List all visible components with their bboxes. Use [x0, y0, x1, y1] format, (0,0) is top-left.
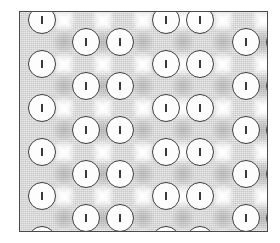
atom-tick-icon	[245, 170, 247, 178]
lattice-atom	[186, 94, 214, 122]
texture-figure	[0, 0, 280, 243]
atom-tick-icon	[199, 16, 201, 24]
atom-tick-icon	[41, 60, 43, 68]
atom-tick-icon	[85, 214, 87, 222]
atom-tick-icon	[199, 148, 201, 156]
lattice-atom	[186, 138, 214, 166]
lattice-atom	[72, 28, 100, 56]
lattice-atom	[72, 116, 100, 144]
atom-tick-icon	[245, 38, 247, 46]
lattice-atom	[232, 116, 260, 144]
atom-tick-icon	[85, 126, 87, 134]
atom-tick-icon	[85, 170, 87, 178]
atom-tick-icon	[245, 126, 247, 134]
atom-tick-icon	[41, 148, 43, 156]
atom-tick-icon	[165, 104, 167, 112]
atom-tick-icon	[245, 214, 247, 222]
atom-tick-icon	[165, 148, 167, 156]
lattice-atom	[106, 204, 134, 232]
atom-tick-icon	[41, 192, 43, 200]
atom-tick-icon	[199, 192, 201, 200]
lattice-atom	[232, 160, 260, 188]
lattice-atom	[72, 160, 100, 188]
lattice-atom	[232, 72, 260, 100]
atom-tick-icon	[119, 126, 121, 134]
lattice-atom	[232, 28, 260, 56]
lattice-atom	[186, 182, 214, 210]
atom-tick-icon	[85, 38, 87, 46]
atom-tick-icon	[165, 60, 167, 68]
lattice-atom	[28, 50, 56, 78]
lattice-atom	[28, 182, 56, 210]
lattice-atom	[106, 72, 134, 100]
atom-tick-icon	[245, 82, 247, 90]
lattice-atom	[152, 182, 180, 210]
lattice-atom	[152, 50, 180, 78]
lattice-atom	[72, 204, 100, 232]
atom-tick-icon	[41, 16, 43, 24]
lattice-atom	[106, 28, 134, 56]
lattice-atom	[152, 138, 180, 166]
atom-tick-icon	[119, 214, 121, 222]
atom-tick-icon	[119, 38, 121, 46]
texture-plate	[19, 11, 268, 232]
atom-tick-icon	[165, 192, 167, 200]
lattice-atom	[232, 204, 260, 232]
texture-ground	[20, 12, 267, 231]
atom-tick-icon	[165, 16, 167, 24]
atom-tick-icon	[199, 60, 201, 68]
lattice-atom	[106, 160, 134, 188]
atom-tick-icon	[119, 170, 121, 178]
lattice-atom	[152, 94, 180, 122]
atom-tick-icon	[199, 104, 201, 112]
lattice-atom	[186, 50, 214, 78]
lattice-atom	[72, 72, 100, 100]
lattice-atom	[28, 94, 56, 122]
lattice-atom	[28, 138, 56, 166]
lattice-atom	[106, 116, 134, 144]
atom-tick-icon	[85, 82, 87, 90]
atom-tick-icon	[119, 82, 121, 90]
atom-tick-icon	[41, 104, 43, 112]
